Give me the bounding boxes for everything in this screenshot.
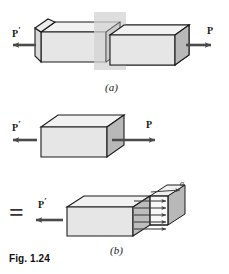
figure-caption: Fig. 1.24 bbox=[9, 254, 50, 264]
mechanics-diagram-svg bbox=[0, 0, 229, 274]
freebody-force-label-left: P′ bbox=[12, 120, 21, 133]
panel-b-front-face bbox=[67, 207, 133, 236]
freebody-force-label-right: P bbox=[146, 120, 152, 130]
stress-symbol-label: σ bbox=[180, 180, 184, 188]
stress-block-front-face bbox=[150, 196, 168, 225]
freebody-front-face bbox=[41, 127, 107, 157]
panel-a-sublabel: (a) bbox=[105, 82, 118, 93]
panel-b-sublabel: (b) bbox=[110, 245, 123, 256]
right-bar-front-face-overlay bbox=[110, 35, 175, 65]
panel-b-group bbox=[36, 185, 185, 236]
panel-a-force-label-right: P bbox=[207, 26, 213, 36]
panel-b-force-label-left: P′ bbox=[38, 197, 47, 210]
panel-a-group bbox=[13, 12, 211, 70]
figure-1-24: P′ P (a) P′ P = P′ σ (b) Fig. 1.24 bbox=[0, 0, 229, 274]
panel-a-force-label-left: P′ bbox=[12, 26, 21, 39]
panel-freebody-group bbox=[13, 115, 155, 157]
equals-sign: = bbox=[9, 200, 24, 226]
